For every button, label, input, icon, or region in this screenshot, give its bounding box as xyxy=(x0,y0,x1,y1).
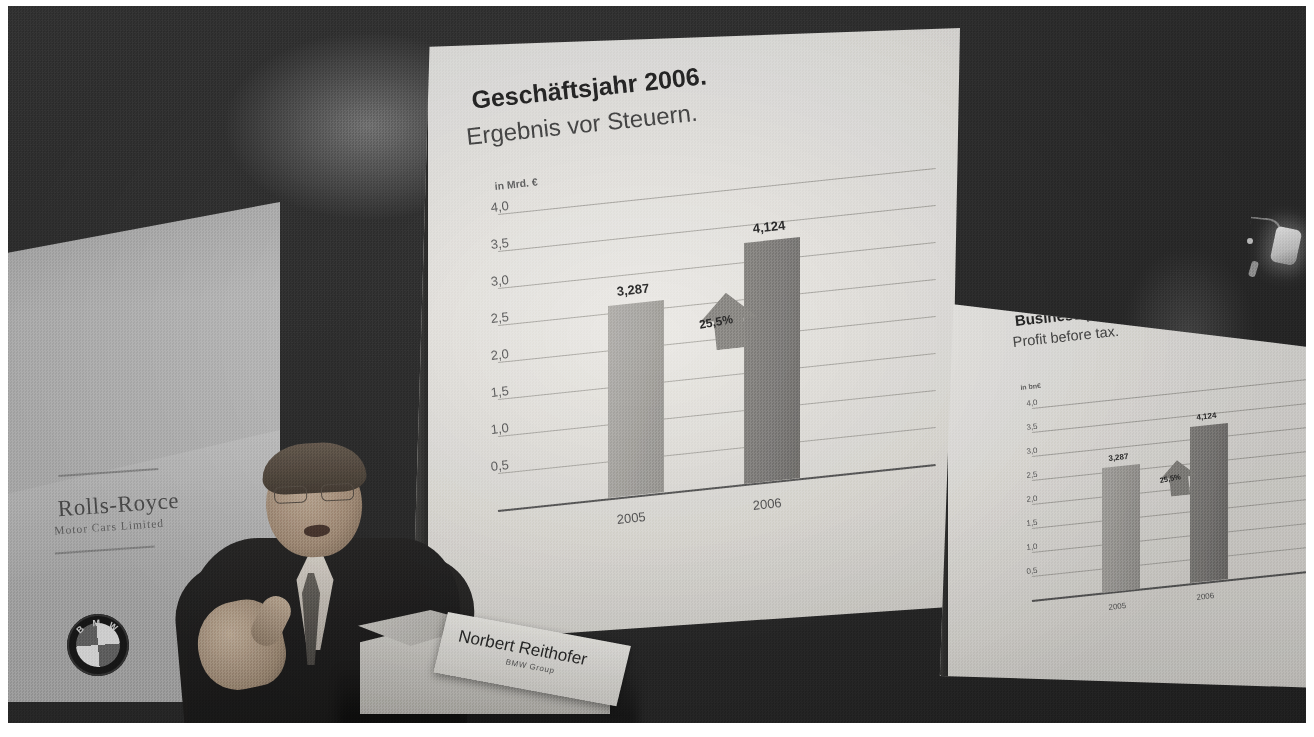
x-axis-line xyxy=(1032,569,1306,602)
y-axis-tick-label: 4,0 xyxy=(1026,398,1038,408)
y-axis-tick-label: 1,0 xyxy=(490,420,510,437)
bmw-letter-w: W xyxy=(107,620,120,634)
gridline xyxy=(498,353,936,400)
gridline xyxy=(1032,401,1306,433)
bmw-roundel-icon: B M W xyxy=(65,612,131,678)
gridline xyxy=(1032,425,1306,457)
bar-value-label: 4,124 xyxy=(1196,411,1217,422)
gridline xyxy=(498,427,936,474)
light-mount-bolt xyxy=(1247,238,1253,244)
projection-slide-german: Geschäftsjahr 2006. Ergebnis vor Steuern… xyxy=(412,28,960,656)
screenshot-root: Rolls-Royce Motor Cars Limited B M W Ges… xyxy=(0,0,1314,737)
bar-2005 xyxy=(1102,464,1140,593)
bar-2005 xyxy=(608,300,664,498)
x-axis-category-label: 2006 xyxy=(1196,592,1215,603)
gridline xyxy=(498,205,936,252)
y-axis-tick-label: 3,0 xyxy=(490,272,510,289)
x-axis-category-label: 2006 xyxy=(752,495,782,513)
gridline xyxy=(1032,497,1306,529)
gridline xyxy=(1032,545,1306,577)
bmw-letter-b: B xyxy=(74,623,86,635)
y-axis-tick-label: 2,0 xyxy=(1026,494,1038,504)
bar-value-label: 3,287 xyxy=(1108,452,1129,463)
slide-german-axis-unit: in Mrd. € xyxy=(494,175,538,191)
projection-slide-english: Business year 2006. Profit before tax. i… xyxy=(936,284,1306,688)
x-axis-category-label: 2005 xyxy=(616,509,646,527)
slide-german-content: Geschäftsjahr 2006. Ergebnis vor Steuern… xyxy=(412,28,960,656)
slide-english-axis-unit: in bn€ xyxy=(1020,382,1041,391)
y-axis-tick-label: 2,0 xyxy=(490,346,510,363)
y-axis-tick-label: 0,5 xyxy=(1026,566,1038,576)
bmw-letter-m: M xyxy=(92,618,101,629)
y-axis-tick-label: 1,0 xyxy=(1026,542,1038,552)
y-axis-tick-label: 2,5 xyxy=(1026,470,1038,480)
gridline xyxy=(498,242,936,289)
y-axis-tick-label: 4,0 xyxy=(490,198,510,215)
y-axis-tick-label: 1,5 xyxy=(490,383,510,400)
bar-value-label: 4,124 xyxy=(752,218,786,236)
y-axis-tick-label: 2,5 xyxy=(490,309,510,326)
bar-2006 xyxy=(1190,423,1228,583)
y-axis-tick-label: 3,5 xyxy=(490,235,510,252)
gridline xyxy=(498,390,936,437)
bmw-letters: B M W xyxy=(65,612,131,678)
y-axis-tick-label: 1,5 xyxy=(1026,518,1038,528)
x-axis-line xyxy=(498,464,936,512)
conference-photo: Rolls-Royce Motor Cars Limited B M W Ges… xyxy=(8,6,1306,723)
x-axis-category-label: 2005 xyxy=(1108,601,1127,612)
slide-english-content: Business year 2006. Profit before tax. i… xyxy=(936,284,1306,688)
bar-value-label: 3,287 xyxy=(616,281,650,299)
bar-2006 xyxy=(744,237,800,484)
y-axis-tick-label: 3,5 xyxy=(1026,422,1038,432)
y-axis-tick-label: 3,0 xyxy=(1026,446,1038,456)
gridline xyxy=(1032,377,1306,409)
y-axis-tick-label: 0,5 xyxy=(490,457,510,474)
glasses-icon xyxy=(274,483,355,503)
gridline xyxy=(1032,521,1306,553)
gridline xyxy=(498,168,936,215)
